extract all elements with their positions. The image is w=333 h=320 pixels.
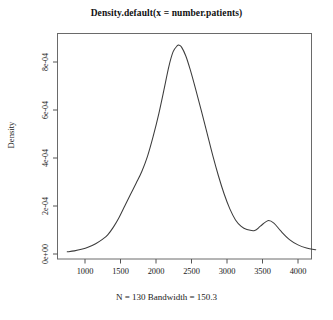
x-tick-label: 3500 [254, 267, 271, 276]
x-axis-ticks: 1000150020002500300035004000 [77, 259, 307, 276]
x-tick-label: 3000 [219, 267, 236, 276]
x-tick-label: 4000 [290, 267, 307, 276]
plot-canvas: 0e+002e-044e-046e-048e-04 10001500200025… [0, 0, 333, 320]
y-tick-label: 4e-04 [41, 149, 50, 167]
y-axis-ticks: 0e+002e-044e-046e-048e-04 [41, 53, 58, 264]
chart-subtitle: N = 130 Bandwidth = 150.3 [0, 292, 333, 302]
y-tick-label: 2e-04 [41, 197, 50, 215]
x-tick-label: 2000 [148, 267, 165, 276]
x-tick-label: 2500 [183, 267, 200, 276]
y-tick-label: 8e-04 [41, 53, 50, 71]
y-tick-label: 6e-04 [41, 101, 50, 119]
x-tick-label: 1500 [112, 267, 129, 276]
density-plot-figure: Density.default(x = number.patients) Den… [0, 0, 333, 320]
x-tick-label: 1000 [77, 267, 94, 276]
y-tick-label: 0e+00 [41, 244, 50, 264]
plot-frame [58, 34, 312, 260]
density-curve [67, 45, 316, 252]
